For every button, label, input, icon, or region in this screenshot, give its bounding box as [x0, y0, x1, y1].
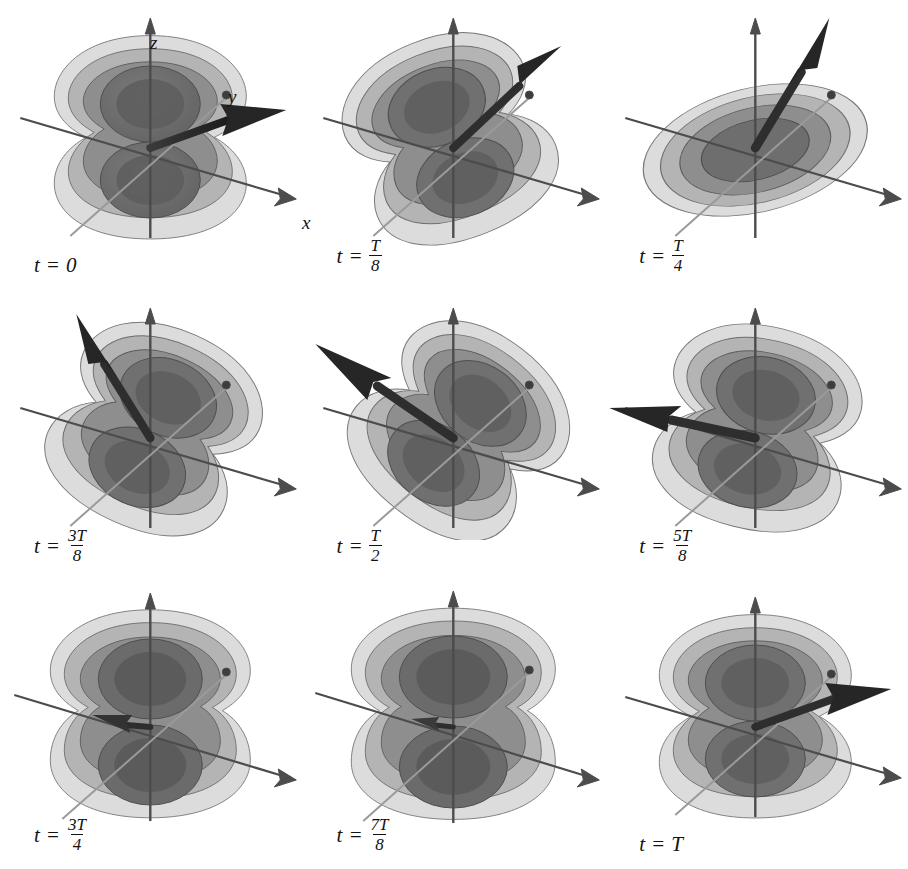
time-fraction: 7T 8 [369, 816, 391, 854]
fraction-numerator: 5T [671, 527, 693, 545]
time-label-panel-3: t = T 4 [639, 238, 684, 276]
fraction-denominator: 8 [676, 545, 689, 564]
fraction-numerator: 3T [66, 816, 88, 834]
time-label-panel-4: t = 3T 8 [34, 528, 88, 566]
time-symbol: t [337, 536, 343, 557]
time-fraction: T 4 [671, 237, 684, 275]
dipole-radiation-figure: z y x t = 0 [0, 0, 908, 869]
fraction-denominator: 8 [71, 545, 84, 564]
fraction-numerator: T [369, 237, 382, 255]
panel-4-viewport [0, 290, 303, 540]
fraction-denominator: 4 [71, 834, 84, 853]
panel-t-T-over-8: t = T 8 [303, 0, 606, 290]
panel-7-viewport [0, 579, 303, 829]
fraction-denominator: 8 [369, 255, 382, 274]
time-symbol: t [639, 246, 645, 267]
time-symbol: t [639, 536, 645, 557]
panel-t-T: t = T [605, 579, 908, 869]
equals-sign: = [651, 834, 665, 855]
fraction-numerator: T [369, 527, 382, 545]
time-value: T [671, 834, 683, 855]
panel-t-T-over-2: t = T 2 [303, 290, 606, 580]
fraction-numerator: 7T [369, 816, 391, 834]
time-label-panel-2: t = T 8 [337, 238, 382, 276]
panel-t-7T-over-8: t = 7T 8 [303, 579, 606, 869]
time-fraction: 3T 4 [66, 816, 88, 854]
time-label-panel-7: t = 3T 4 [34, 817, 88, 855]
time-symbol: t [34, 536, 40, 557]
equals-sign: = [46, 536, 60, 557]
fraction-numerator: T [671, 237, 684, 255]
panel-2-viewport [303, 0, 606, 250]
time-fraction: T 2 [369, 527, 382, 565]
equals-sign: = [348, 825, 362, 846]
fraction-denominator: 8 [373, 834, 386, 853]
equals-sign: = [46, 825, 60, 846]
time-label-panel-1: t = 0 [34, 255, 77, 276]
panel-9-viewport [605, 579, 908, 829]
time-symbol: t [34, 825, 40, 846]
time-symbol: t [337, 246, 343, 267]
time-symbol: t [639, 834, 645, 855]
time-label-panel-8: t = 7T 8 [337, 817, 391, 855]
panel-t-3T-over-8: t = 3T 8 [0, 290, 303, 580]
panel-3-viewport [605, 0, 908, 250]
time-label-panel-6: t = 5T 8 [639, 528, 693, 566]
axis-label-z: z [150, 32, 157, 54]
panel-grid: z y x t = 0 [0, 0, 908, 869]
time-label-panel-5: t = T 2 [337, 528, 382, 566]
time-symbol: t [337, 825, 343, 846]
panel-8-viewport [303, 579, 606, 829]
time-symbol: t [34, 255, 40, 276]
panel-t-0: z y x t = 0 [0, 0, 303, 290]
time-label-panel-9: t = T [639, 834, 683, 855]
time-value: 0 [66, 255, 77, 276]
equals-sign: = [46, 255, 60, 276]
equals-sign: = [348, 246, 362, 267]
fraction-numerator: 3T [66, 527, 88, 545]
isosurface-shells [321, 290, 597, 540]
panel-t-5T-over-8: t = 5T 8 [605, 290, 908, 580]
fraction-denominator: 2 [369, 545, 382, 564]
time-fraction: 5T 8 [671, 527, 693, 565]
axis-label-y: y [228, 86, 236, 108]
panel-5-viewport [303, 290, 606, 540]
equals-sign: = [651, 536, 665, 557]
time-fraction: 3T 8 [66, 527, 88, 565]
panel-t-3T-over-4: t = 3T 4 [0, 579, 303, 869]
isosurface-shells [26, 296, 284, 540]
panel-6-viewport [605, 290, 908, 540]
equals-sign: = [651, 246, 665, 267]
fraction-denominator: 4 [672, 255, 685, 274]
panel-t-T-over-4: t = T 4 [605, 0, 908, 290]
time-fraction: T 8 [369, 237, 382, 275]
equals-sign: = [348, 536, 362, 557]
